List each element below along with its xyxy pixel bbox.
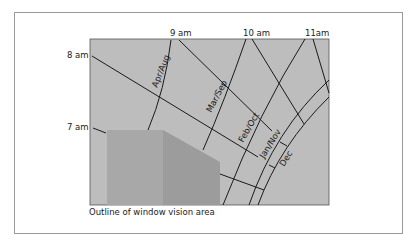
label-9am: 9 am xyxy=(170,28,192,38)
figure-caption: Outline of window vision area xyxy=(89,207,215,217)
label-11am: 11am xyxy=(305,28,329,38)
label-8am: 8 am xyxy=(67,50,89,60)
label-7am: 7 am xyxy=(67,122,89,132)
label-10am: 10 am xyxy=(243,28,270,38)
